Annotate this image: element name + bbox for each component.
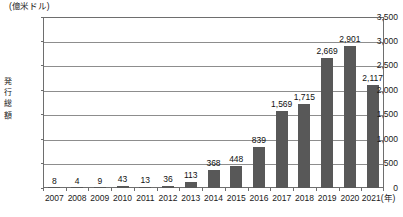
y-axis-tick-mark bbox=[41, 188, 44, 189]
x-axis-tick-mark bbox=[179, 188, 180, 191]
bar-value-label: 839 bbox=[239, 136, 279, 145]
bar bbox=[321, 58, 333, 188]
bar bbox=[253, 147, 265, 188]
y-axis-tick-mark bbox=[41, 41, 44, 42]
x-axis bbox=[43, 188, 384, 192]
y-axis-tick-mark bbox=[41, 17, 44, 18]
bar-value-label: 2,117 bbox=[353, 74, 393, 83]
bar bbox=[230, 166, 242, 188]
y-axis-tick-label: 2,000 bbox=[358, 86, 398, 95]
x-axis-tick-mark bbox=[339, 188, 340, 191]
bar-value-label: 2,669 bbox=[307, 47, 347, 56]
y-axis-tick-mark bbox=[41, 163, 44, 164]
x-axis-tick-mark bbox=[88, 188, 89, 191]
x-axis-tick-mark bbox=[202, 188, 203, 191]
y-axis-tick-mark bbox=[41, 65, 44, 66]
bar-value-label: 1,715 bbox=[284, 93, 324, 102]
y-axis-tick-label: 0 bbox=[358, 184, 398, 193]
bar-value-label: 113 bbox=[171, 171, 211, 180]
y-axis-tick-label: 500 bbox=[358, 159, 398, 168]
bar bbox=[344, 46, 356, 188]
y-axis-tick-label: 1,500 bbox=[358, 110, 398, 119]
x-axis-tick-mark bbox=[225, 188, 226, 191]
y-axis-tick-mark bbox=[41, 114, 44, 115]
bar-value-label: 2,901 bbox=[330, 35, 370, 44]
x-axis-tick-mark bbox=[157, 188, 158, 191]
y-axis-tick-label: 3,500 bbox=[358, 13, 398, 22]
bar bbox=[298, 104, 310, 188]
x-axis-tick-mark bbox=[66, 188, 67, 191]
x-axis-tick-mark bbox=[134, 188, 135, 191]
bar bbox=[276, 111, 288, 188]
x-axis-tick-mark bbox=[248, 188, 249, 191]
x-axis-tick-mark bbox=[111, 188, 112, 191]
y-axis-tick-mark bbox=[41, 90, 44, 91]
x-axis-tick-mark bbox=[316, 188, 317, 191]
x-axis-tick-mark bbox=[293, 188, 294, 191]
y-axis bbox=[0, 0, 43, 171]
y-axis-tick-mark bbox=[41, 139, 44, 140]
x-axis-tick-mark bbox=[270, 188, 271, 191]
bar-value-label: 448 bbox=[216, 155, 256, 164]
y-axis-tick-label: 1,000 bbox=[358, 135, 398, 144]
y-axis-tick-label: 2,500 bbox=[358, 61, 398, 70]
x-axis-tick-label: 2021(年) bbox=[355, 193, 403, 203]
